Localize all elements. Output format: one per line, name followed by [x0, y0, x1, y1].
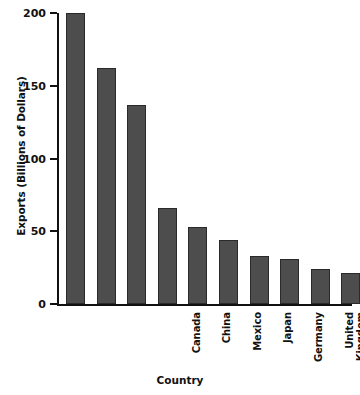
- bar: [341, 273, 360, 304]
- y-axis-tick-label: 200: [23, 7, 46, 20]
- bar: [97, 68, 116, 304]
- y-axis-tick-label: 0: [38, 298, 46, 311]
- x-axis-title: Country: [0, 374, 360, 386]
- bar: [66, 13, 85, 304]
- bar-chart: Exports (Billions of Dollars) 0501001502…: [0, 0, 360, 395]
- bar: [250, 256, 269, 304]
- bar: [158, 208, 177, 304]
- y-axis-tick: 0: [50, 303, 57, 305]
- bar: [280, 259, 299, 304]
- y-axis-tick-label: 150: [23, 79, 46, 92]
- y-axis-tick-label: 50: [31, 225, 46, 238]
- bar: [311, 269, 330, 304]
- y-axis-tick: 100: [50, 158, 57, 160]
- bar: [127, 105, 146, 304]
- y-axis-tick: 150: [50, 85, 57, 87]
- bar: [219, 240, 238, 304]
- y-axis-tick: 50: [50, 230, 57, 232]
- y-axis-tick: 200: [50, 12, 57, 14]
- y-axis-tick-label: 100: [23, 152, 46, 165]
- plot-area: 050100150200: [57, 13, 352, 305]
- bar: [188, 227, 207, 304]
- y-axis-line: [57, 13, 59, 306]
- x-axis-line: [57, 304, 352, 306]
